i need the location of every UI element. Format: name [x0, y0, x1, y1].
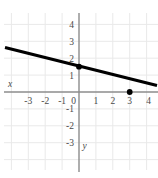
y-tick-3: 3 [69, 37, 74, 47]
y-tick--2: -2 [66, 121, 74, 131]
x-tick-4: 4 [146, 96, 151, 106]
y-tick-4: 4 [69, 20, 74, 30]
x-tick-2: 2 [110, 96, 115, 106]
x-tick--3: -3 [24, 96, 32, 106]
point-y-intercept [76, 64, 82, 70]
y-tick-2: 2 [69, 54, 74, 64]
x-tick--1: -1 [58, 96, 66, 106]
y-tick--1: -1 [66, 104, 74, 114]
x-tick--2: -2 [41, 96, 49, 106]
y-tick--3: -3 [66, 138, 74, 148]
x-tick-1: 1 [94, 96, 99, 106]
y-tick-1: 1 [69, 71, 74, 81]
y-axis-label: y [82, 141, 88, 151]
graph-figure: -3 -2 -1 0 1 2 3 4 4 3 2 1 -1 -2 -3 x y [0, 0, 158, 178]
x-tick-3: 3 [127, 96, 132, 106]
point-x-intercept [127, 89, 133, 95]
coordinate-plane-svg: -3 -2 -1 0 1 2 3 4 4 3 2 1 -1 -2 -3 x y [0, 0, 158, 178]
x-axis-label: x [7, 79, 13, 89]
